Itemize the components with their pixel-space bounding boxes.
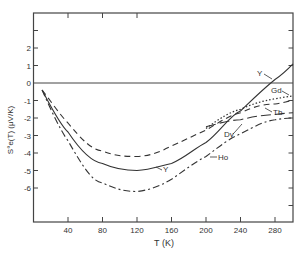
- y-tick-label: -5: [24, 167, 32, 176]
- y-tick-label: 2: [27, 44, 32, 53]
- y-tick-label: -2: [24, 114, 32, 123]
- chart-svg: 2 1 0 -1 -2 -3 -4 -5 -6 40 80 120 160 20…: [0, 0, 301, 254]
- y-tick-label: 0: [27, 79, 32, 88]
- x-tick-label: 40: [64, 226, 73, 235]
- x-tick-label: 200: [199, 226, 213, 235]
- x-tick-label: 160: [165, 226, 179, 235]
- x-tick-label: 240: [234, 226, 248, 235]
- y-axis-label: S°e(T) (μV/K): [6, 106, 15, 155]
- plot-frame: [34, 13, 294, 222]
- annotation-tb: Tb: [273, 108, 283, 117]
- y-tick-labels: 2 1 0 -1 -2 -3 -4 -5 -6: [24, 44, 32, 193]
- annotation-dy: Dy: [224, 130, 234, 139]
- y-tick-label: -4: [24, 149, 32, 158]
- annotation-y-top: Y: [257, 69, 263, 78]
- annotation-ho: Ho: [218, 153, 229, 162]
- series-ho-dashdot: [42, 90, 293, 192]
- chart: 2 1 0 -1 -2 -3 -4 -5 -6 40 80 120 160 20…: [0, 0, 301, 254]
- y-tick-label: -6: [24, 184, 32, 193]
- x-tick-labels: 40 80 120 160 200 240 280: [64, 226, 283, 235]
- x-axis-label: T (K): [154, 238, 174, 248]
- y-ticks: [34, 31, 294, 206]
- annotation-y-bottom: Y: [163, 165, 169, 174]
- series-y-solid: [42, 64, 293, 171]
- annotation-gd: Gd: [271, 86, 282, 95]
- x-tick-label: 80: [98, 226, 107, 235]
- x-tick-label: 120: [130, 226, 144, 235]
- y-tick-label: 1: [27, 62, 32, 71]
- x-tick-label: 280: [268, 226, 282, 235]
- y-tick-label: -3: [24, 132, 32, 141]
- x-ticks: [68, 13, 275, 222]
- y-tick-label: -1: [24, 97, 32, 106]
- series-tb-dashed: [42, 90, 293, 157]
